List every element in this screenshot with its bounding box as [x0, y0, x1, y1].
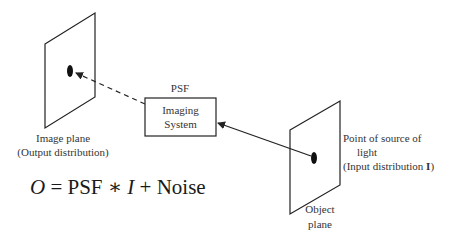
diagram-graphics [0, 0, 453, 245]
output-distribution-label: (Output distribution) [17, 146, 108, 159]
source-point-dot [311, 152, 317, 164]
light-label: light [357, 146, 377, 159]
imaging-system-line2: System [164, 117, 196, 131]
equation-output-var: O [30, 175, 45, 199]
imaging-system-line1: Imaging [162, 103, 199, 117]
imaging-diagram: Image plane (Output distribution) PSF Im… [0, 0, 453, 245]
input-distribution-close: ) [430, 160, 434, 172]
input-solid-arrow [218, 123, 311, 156]
equation-psf-term: = PSF ∗ [45, 175, 127, 199]
image-plane-label: Image plane [36, 132, 90, 145]
object-label: Object [305, 203, 334, 216]
imaging-system-text: Imaging System [145, 98, 216, 136]
point-source-label: Point of source of [343, 132, 422, 145]
image-point-dot [67, 65, 73, 77]
equation-noise-term: + Noise [134, 175, 205, 199]
input-distribution-label: (Input distribution I) [343, 160, 434, 173]
output-dashed-arrow [76, 73, 145, 104]
object-plane-label: plane [308, 218, 332, 231]
imaging-equation: O = PSF ∗ I + Noise [30, 175, 206, 200]
input-distribution-text: (Input distribution [343, 160, 426, 172]
psf-label: PSF [171, 82, 189, 95]
